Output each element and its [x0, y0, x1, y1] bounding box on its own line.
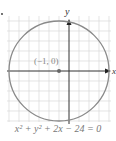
bullet-icon — [1, 13, 3, 15]
x-axis-arrow-icon — [105, 69, 111, 74]
center-point — [57, 69, 61, 73]
center-label: (−1, 0) — [34, 56, 59, 66]
y-axis-label: y — [64, 6, 70, 17]
equation-caption: x² + y² + 2x − 24 = 0 — [0, 123, 116, 134]
x-axis-label: x — [111, 66, 116, 76]
circle-graph: (−1, 0) y x — [0, 0, 116, 141]
